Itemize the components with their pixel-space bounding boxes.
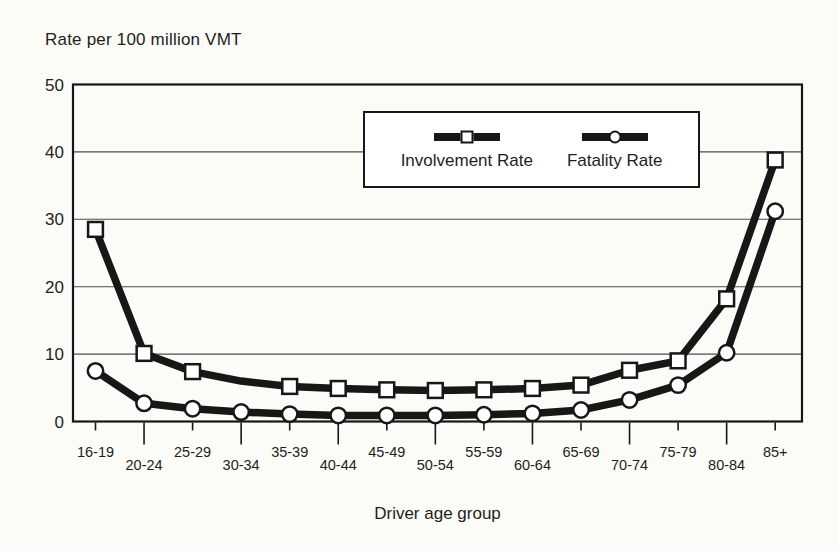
involvement-rate-line-sample (434, 129, 500, 146)
legend-entry-fatality-rate: Fatality Rate (567, 129, 662, 171)
marker-square (622, 363, 637, 378)
legend-label-involvement-rate: Involvement Rate (401, 151, 533, 171)
marker-square (768, 153, 783, 168)
x-tick-label-80-84: 80-84 (708, 457, 745, 473)
x-tick-label-16-19: 16-19 (77, 444, 114, 460)
marker-square (88, 222, 103, 237)
x-tick-label-85+: 85+ (763, 444, 788, 460)
chart-legend: Involvement Rate Fatality Rate (363, 111, 700, 188)
x-tick-label-75-79: 75-79 (660, 444, 697, 460)
line-chart-canvas: 0102030405016-1920-2425-2930-3435-3940-4… (0, 0, 839, 551)
x-tick-label-20-24: 20-24 (126, 457, 163, 473)
y-tick-label-0: 0 (55, 413, 64, 432)
square-marker-icon (460, 131, 473, 144)
marker-square (477, 382, 492, 397)
marker-square (719, 291, 734, 306)
marker-circle (88, 363, 103, 378)
marker-square (137, 346, 152, 361)
x-tick-label-25-29: 25-29 (174, 444, 211, 460)
marker-circle (622, 392, 637, 407)
marker-circle (428, 408, 443, 423)
marker-square (331, 381, 346, 396)
chart-figure: Rate per 100 million VMT 0102030405016-1… (0, 0, 839, 551)
marker-circle (233, 404, 248, 419)
x-tick-label-60-64: 60-64 (514, 457, 551, 473)
legend-label-fatality-rate: Fatality Rate (567, 151, 662, 171)
y-tick-label-20: 20 (45, 278, 64, 297)
x-tick-label-45-49: 45-49 (368, 444, 405, 460)
x-tick-label-50-54: 50-54 (417, 457, 454, 473)
y-tick-label-10: 10 (45, 345, 64, 364)
marker-circle (136, 396, 151, 411)
y-tick-label-50: 50 (45, 76, 64, 95)
marker-circle (525, 406, 540, 421)
x-tick-label-65-69: 65-69 (562, 444, 599, 460)
marker-circle (331, 408, 346, 423)
x-axis-title: Driver age group (73, 504, 802, 524)
circle-marker-icon (608, 131, 621, 144)
marker-circle (282, 406, 297, 421)
y-tick-label-30: 30 (45, 210, 64, 229)
marker-circle (573, 402, 588, 417)
marker-circle (719, 345, 734, 360)
marker-circle (185, 401, 200, 416)
x-tick-label-55-59: 55-59 (465, 444, 502, 460)
legend-entry-involvement-rate: Involvement Rate (401, 129, 533, 171)
marker-square (428, 383, 443, 398)
marker-circle (379, 408, 394, 423)
y-tick-label-40: 40 (45, 143, 64, 162)
x-tick-label-40-44: 40-44 (320, 457, 357, 473)
x-tick-label-70-74: 70-74 (611, 457, 648, 473)
x-tick-label-35-39: 35-39 (271, 444, 308, 460)
marker-square (282, 379, 297, 394)
marker-square (525, 381, 540, 396)
x-tick-label-30-34: 30-34 (223, 457, 260, 473)
marker-square (379, 382, 394, 397)
marker-square (574, 378, 589, 393)
marker-square (185, 364, 200, 379)
fatality-rate-line-sample (582, 129, 648, 146)
marker-circle (670, 377, 685, 392)
marker-circle (476, 407, 491, 422)
marker-circle (768, 204, 783, 219)
marker-square (671, 353, 686, 368)
